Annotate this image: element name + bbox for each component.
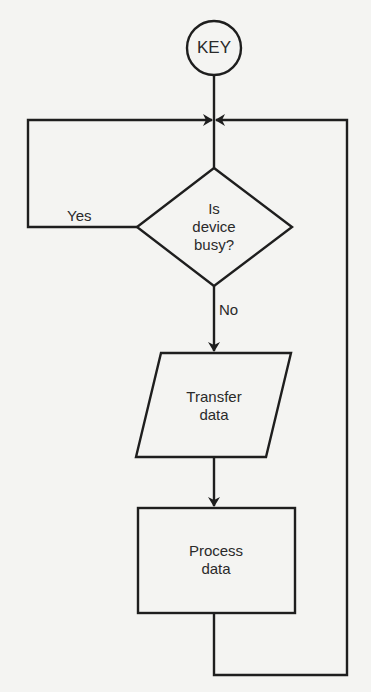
no-edge-label: No: [219, 301, 238, 319]
process-label: Process data: [189, 542, 243, 578]
process-line-1: Process: [189, 542, 243, 560]
decision-line-2: device: [192, 218, 235, 236]
yes-edge-label: Yes: [67, 207, 91, 225]
decision-line-3: busy?: [192, 236, 235, 254]
decision-line-1: Is: [192, 200, 235, 218]
transfer-label: Transfer data: [186, 388, 241, 424]
decision-label: Is device busy?: [192, 200, 235, 254]
key-label: KEY: [197, 39, 231, 57]
flowchart-lines: [0, 0, 371, 692]
yes-loop: [28, 120, 212, 227]
process-line-2: data: [189, 560, 243, 578]
transfer-line-2: data: [186, 406, 241, 424]
transfer-line-1: Transfer: [186, 388, 241, 406]
flowchart: KEY Is device busy? Transfer data Proces…: [0, 0, 371, 692]
